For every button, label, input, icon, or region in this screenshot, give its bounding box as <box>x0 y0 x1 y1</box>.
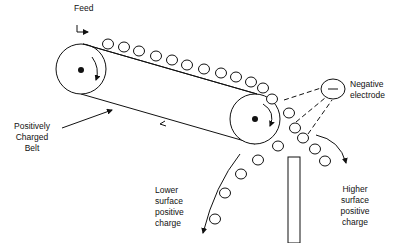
particles-on-belt <box>103 39 269 93</box>
feed-arrow-icon <box>77 25 88 32</box>
belt-direction-arrow-icon <box>160 121 166 126</box>
belt-bottom-run <box>81 94 255 144</box>
negative-electrode-label: Negative electrode <box>350 79 385 101</box>
particles-lower-charge-stream <box>210 141 284 224</box>
lower-charge-label: Lower surface positive charge <box>155 185 184 229</box>
right-roller-axle <box>252 116 258 122</box>
feed-label: Feed <box>74 3 93 14</box>
higher-charge-label: Higher surface positive charge <box>333 184 377 228</box>
positively-charged-belt-label: Positively Charged Belt <box>8 121 56 154</box>
splitter-plate <box>288 157 300 243</box>
separator-diagram: Feed Negative electrode Positively Charg… <box>0 0 396 243</box>
belt-pointer-arrow-icon <box>62 110 112 128</box>
left-roller-axle <box>78 67 84 73</box>
